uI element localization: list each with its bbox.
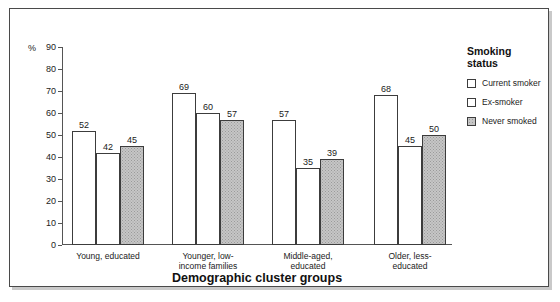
y-tick-label: 70 [46, 86, 56, 96]
bar[interactable]: 35 [296, 168, 320, 245]
bar-value-label: 45 [405, 135, 415, 145]
bar-value-label: 60 [203, 102, 213, 112]
bar[interactable]: 57 [272, 120, 296, 245]
bar-group: 684550 [374, 47, 446, 245]
legend-label: Ex-smoker [482, 97, 523, 107]
legend-item[interactable]: Never smoked [467, 116, 560, 126]
y-tick-label: 0 [51, 240, 56, 250]
y-tick-mark [58, 157, 62, 158]
y-tick-mark [58, 69, 62, 70]
y-tick-mark [58, 113, 62, 114]
y-tick-mark [58, 179, 62, 180]
bar[interactable]: 45 [398, 146, 422, 245]
bar[interactable]: 60 [196, 113, 220, 245]
y-tick-mark [58, 47, 62, 48]
y-tick-mark [58, 245, 62, 246]
bar[interactable]: 42 [96, 153, 120, 245]
y-tick-label: 40 [46, 152, 56, 162]
bar-value-label: 52 [79, 120, 89, 130]
legend-item[interactable]: Current smoker [467, 78, 560, 88]
bar[interactable]: 57 [220, 120, 244, 245]
y-tick-label: 10 [46, 218, 56, 228]
legend-label: Current smoker [482, 78, 541, 88]
bar-group: 524245 [72, 47, 144, 245]
bar-value-label: 69 [179, 82, 189, 92]
bar[interactable]: 68 [374, 95, 398, 245]
bar-value-label: 68 [381, 84, 391, 94]
bar[interactable]: 39 [320, 159, 344, 245]
y-tick-label: 90 [46, 42, 56, 52]
legend-swatch [467, 117, 476, 126]
legend-items: Current smokerEx-smokerNever smoked [467, 78, 560, 126]
y-tick-mark [58, 91, 62, 92]
legend-label: Never smoked [482, 116, 537, 126]
bar-group: 573539 [272, 47, 344, 245]
bar-value-label: 45 [127, 135, 137, 145]
y-tick-label: 30 [46, 174, 56, 184]
x-category-label: Younger, low- income families [158, 251, 258, 271]
x-axis-title: Demographic cluster groups [62, 271, 452, 285]
y-axis-line [62, 47, 63, 245]
chart-frame: % 0102030405060708090 524245696057573539… [9, 8, 549, 287]
legend-item[interactable]: Ex-smoker [467, 97, 560, 107]
bar-group: 696057 [172, 47, 244, 245]
y-tick-label: 80 [46, 64, 56, 74]
plot-area: 0102030405060708090 52424569605757353968… [62, 47, 452, 245]
bar-value-label: 57 [279, 109, 289, 119]
bar[interactable]: 69 [172, 93, 196, 245]
bar[interactable]: 52 [72, 131, 96, 245]
legend-swatch [467, 98, 476, 107]
bar[interactable]: 50 [422, 135, 446, 245]
legend: Smoking status Current smokerEx-smokerNe… [467, 45, 560, 135]
y-tick-label: 50 [46, 130, 56, 140]
legend-swatch [467, 79, 476, 88]
y-tick-label: 60 [46, 108, 56, 118]
bar-value-label: 50 [429, 124, 439, 134]
bar-value-label: 35 [303, 157, 313, 167]
x-category-label: Middle-aged, educated [258, 251, 358, 271]
x-category-label: Young, educated [58, 251, 158, 261]
bar[interactable]: 45 [120, 146, 144, 245]
y-tick-mark [58, 201, 62, 202]
legend-title: Smoking status [467, 45, 560, 69]
bar-value-label: 57 [227, 109, 237, 119]
x-category-label: Older, less- educated [360, 251, 460, 271]
figure: % 0102030405060708090 524245696057573539… [0, 0, 560, 302]
y-tick-label: 20 [46, 196, 56, 206]
y-tick-mark [58, 135, 62, 136]
y-axis-unit-label: % [28, 43, 36, 53]
bar-value-label: 39 [327, 148, 337, 158]
y-tick-mark [58, 223, 62, 224]
bar-value-label: 42 [103, 142, 113, 152]
